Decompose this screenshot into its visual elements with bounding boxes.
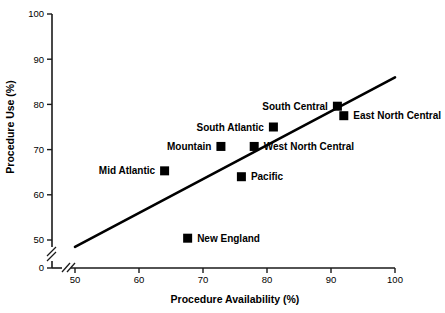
regression-line (75, 77, 395, 247)
data-point-marker (237, 172, 246, 181)
y-tick-label-50: 50 (33, 234, 44, 245)
y-tick-label-90: 90 (33, 54, 44, 65)
data-point-label: Mountain (167, 141, 211, 152)
y-tick-label-0: 0 (39, 262, 44, 273)
trend-line (75, 77, 395, 247)
x-tick-label-80: 80 (262, 274, 273, 285)
data-point-label: East North Central (353, 110, 441, 121)
y-tick-label-70: 70 (33, 144, 44, 155)
x-tick-label-70: 70 (198, 274, 209, 285)
x-tick-label-100: 100 (387, 274, 403, 285)
data-point-label: Pacific (251, 171, 284, 182)
plot-canvas: 050607080901005060708090100 Mid Atlantic… (0, 0, 445, 313)
data-point-marker (160, 166, 169, 175)
data-point-label: South Central (262, 101, 328, 112)
x-tick-label-50: 50 (70, 274, 81, 285)
data-point-marker (269, 123, 278, 132)
y-tick-label-60: 60 (33, 189, 44, 200)
data-point-marker (183, 234, 192, 243)
data-point-marker (333, 102, 342, 111)
x-tick-label-90: 90 (326, 274, 337, 285)
data-point-marker (339, 111, 348, 120)
axis-titles-group: Procedure Availability (%)Procedure Use … (4, 80, 299, 305)
y-axis-break-mark-2 (47, 252, 56, 261)
data-point-label: South Atlantic (196, 122, 264, 133)
scatter-plot-figure: 050607080901005060708090100 Mid Atlantic… (0, 0, 445, 313)
y-tick-label-80: 80 (33, 99, 44, 110)
data-point-marker (250, 142, 259, 151)
x-tick-label-60: 60 (134, 274, 145, 285)
data-point-label: West North Central (264, 141, 355, 152)
data-point-label: Mid Atlantic (99, 165, 156, 176)
y-axis-break-mark-1 (47, 247, 56, 256)
data-point-label: New England (197, 233, 260, 244)
data-points-group: Mid AtlanticMountainSouth AtlanticWest N… (99, 101, 442, 244)
y-tick-label-100: 100 (28, 8, 44, 19)
y-axis-title: Procedure Use (%) (4, 80, 16, 173)
x-axis-title: Procedure Availability (%) (171, 293, 300, 305)
data-point-marker (216, 142, 225, 151)
